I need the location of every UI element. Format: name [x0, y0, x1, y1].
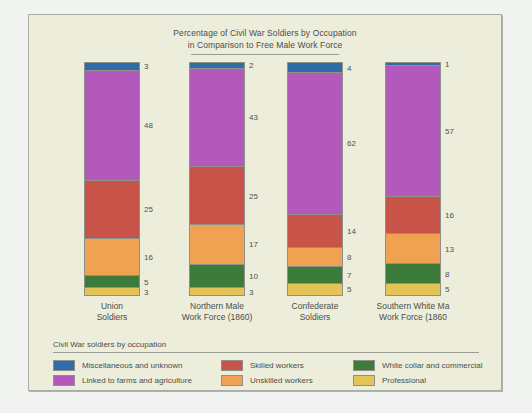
bar-group: 348251653UnionSoldiers [57, 62, 167, 323]
legend-entries: Miscellaneous and unknownSkilled workers… [53, 358, 479, 388]
bar-segment-value: 14 [347, 226, 356, 235]
category-label-line: Union [57, 301, 167, 312]
legend-item[interactable]: White collar and commercial [353, 360, 482, 371]
plot-area: 348251653UnionSoldiers2432517103Northern… [29, 71, 503, 323]
stacked-bar[interactable]: 157161385 [385, 62, 441, 296]
bar-segment-value: 5 [347, 285, 351, 294]
category-label: Southern White MaWork Force (1860 [358, 301, 468, 323]
category-label-line: Soldiers [260, 312, 370, 323]
bar-segment[interactable]: 57 [386, 65, 440, 195]
legend-swatch-icon [353, 375, 375, 386]
bar-segment-value: 48 [144, 121, 153, 130]
chart-title-line-1: Percentage of Civil War Soldiers by Occu… [29, 28, 501, 40]
bar-segment-value: 62 [347, 139, 356, 148]
legend-item-label: Professional [382, 376, 426, 385]
chart-title-line-2: in Comparison to Free Male Work Force [29, 40, 501, 52]
bar-segment-value: 17 [249, 240, 258, 249]
bar-segment[interactable]: 16 [386, 196, 440, 233]
legend-item-label: Linked to farms and agriculture [82, 376, 192, 385]
chart-legend: Civil War soldiers by occupation Miscell… [53, 340, 479, 388]
bar-group: 157161385Southern White MaWork Force (18… [358, 62, 468, 323]
bar-segment[interactable]: 25 [85, 180, 139, 238]
legend-swatch-icon [221, 375, 243, 386]
bar-segment-value: 25 [249, 191, 258, 200]
bar-segment-value: 8 [347, 252, 351, 261]
category-label: UnionSoldiers [57, 301, 167, 323]
bar-segment-value: 4 [347, 63, 351, 72]
stacked-bar[interactable]: 2432517103 [189, 62, 245, 296]
legend-item[interactable]: Linked to farms and agriculture [53, 375, 221, 386]
bar-segment[interactable]: 43 [190, 68, 244, 167]
bar-segment[interactable]: 5 [386, 283, 440, 295]
bar-segment-value: 3 [144, 287, 148, 296]
bar-segment-value: 1 [445, 60, 449, 69]
stacked-bar[interactable]: 46214875 [287, 62, 343, 296]
category-label: Northern MaleWork Force (1860) [162, 301, 272, 323]
bar-segment[interactable]: 13 [386, 233, 440, 264]
legend-item-label: Unskilled workers [250, 376, 313, 385]
bar-segment[interactable]: 17 [190, 224, 244, 264]
bar-segment[interactable]: 8 [288, 247, 342, 266]
bar-segment-value: 57 [445, 126, 454, 135]
bar-segment[interactable]: 5 [85, 275, 139, 287]
bar-segment[interactable]: 16 [85, 238, 139, 275]
bar-group: 46214875ConfederateSoldiers [260, 62, 370, 323]
bar-segment[interactable]: 48 [85, 70, 139, 180]
bar-segment[interactable]: 4 [288, 63, 342, 72]
category-label-line: Southern White Ma [358, 301, 468, 312]
bar-segment-value: 3 [144, 62, 148, 71]
chart-panel: Percentage of Civil War Soldiers by Occu… [28, 14, 502, 391]
legend-title: Civil War soldiers by occupation [53, 340, 479, 349]
bar-segment[interactable]: 25 [190, 166, 244, 224]
bar-segment-value: 7 [347, 270, 351, 279]
legend-item[interactable]: Skilled workers [221, 360, 353, 371]
chart-title: Percentage of Civil War Soldiers by Occu… [29, 28, 501, 51]
bar-segment[interactable]: 62 [288, 72, 342, 214]
bar-segment-value: 3 [249, 287, 253, 296]
bar-segment[interactable]: 5 [288, 283, 342, 295]
title-divider [191, 54, 339, 55]
legend-swatch-icon [53, 360, 75, 371]
legend-swatch-icon [221, 360, 243, 371]
bar-segment[interactable]: 8 [386, 263, 440, 282]
bar-segment-value: 16 [445, 210, 454, 219]
bar-group: 2432517103Northern MaleWork Force (1860) [162, 62, 272, 323]
bar-segment-value: 8 [445, 269, 449, 278]
legend-item-label: Miscellaneous and unknown [82, 361, 183, 370]
legend-swatch-icon [53, 375, 75, 386]
category-label: ConfederateSoldiers [260, 301, 370, 323]
legend-divider [53, 352, 479, 353]
stacked-bar[interactable]: 348251653 [84, 62, 140, 296]
category-label-line: Confederate [260, 301, 370, 312]
bar-segment[interactable]: 10 [190, 264, 244, 288]
bar-segment[interactable]: 3 [85, 63, 139, 70]
bar-segment[interactable]: 14 [288, 214, 342, 247]
bar-segment-value: 5 [445, 285, 449, 294]
category-label-line: Work Force (1860) [162, 312, 272, 323]
bar-segment[interactable]: 7 [288, 266, 342, 283]
bar-segment[interactable]: 3 [85, 287, 139, 295]
legend-item-label: Skilled workers [250, 361, 304, 370]
legend-swatch-icon [353, 360, 375, 371]
category-label-line: Work Force (1860 [358, 312, 468, 323]
bar-segment-value: 13 [445, 244, 454, 253]
bar-segment-value: 16 [144, 252, 153, 261]
bar-segment-value: 2 [249, 61, 253, 70]
legend-item-label: White collar and commercial [382, 361, 482, 370]
bar-segment-value: 43 [249, 113, 258, 122]
bar-segment-value: 10 [249, 271, 258, 280]
bar-segment[interactable]: 3 [190, 287, 244, 295]
legend-item[interactable]: Professional [353, 375, 482, 386]
category-label-line: Soldiers [57, 312, 167, 323]
legend-item[interactable]: Unskilled workers [221, 375, 353, 386]
bar-segment-value: 25 [144, 205, 153, 214]
bar-segment-value: 5 [144, 277, 148, 286]
legend-item[interactable]: Miscellaneous and unknown [53, 360, 221, 371]
category-label-line: Northern Male [162, 301, 272, 312]
